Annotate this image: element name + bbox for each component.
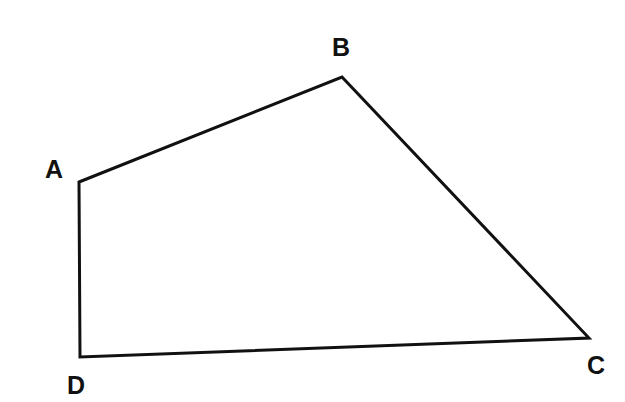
vertex-label-c: C bbox=[587, 351, 605, 379]
quadrilateral-diagram: A B C D bbox=[0, 0, 625, 402]
quadrilateral-abcd bbox=[79, 77, 589, 357]
vertex-label-b: B bbox=[332, 33, 350, 61]
vertex-label-d: D bbox=[67, 371, 85, 399]
vertex-label-a: A bbox=[45, 155, 63, 183]
